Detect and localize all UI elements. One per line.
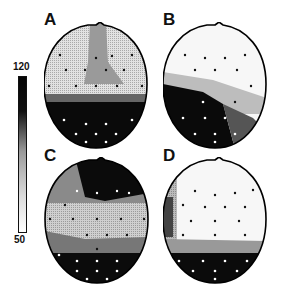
colorbar [18,76,27,233]
topomap-c [44,157,150,284]
colorbar-max-label: 120 [13,61,30,72]
topomap-a [44,22,148,149]
topomap-d [163,157,267,284]
colorbar-min-label: 50 [14,234,25,245]
topomap-b [163,22,267,149]
caption-fragment [14,289,274,297]
